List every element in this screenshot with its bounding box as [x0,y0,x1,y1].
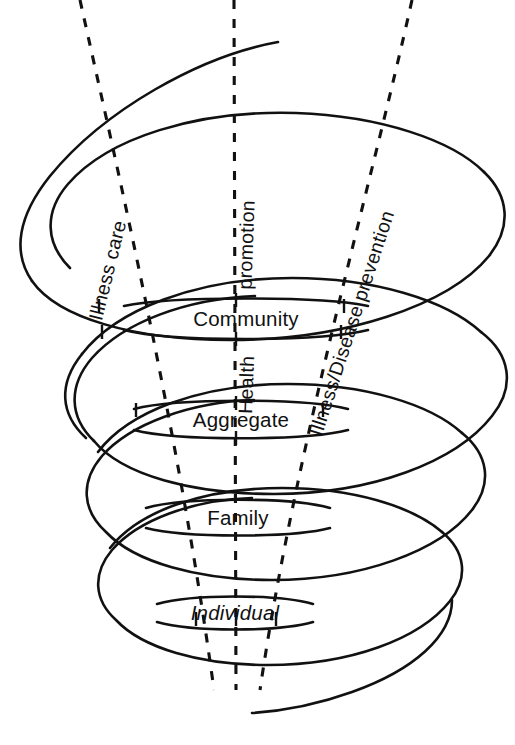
level-label-group: Community Aggregate Family Individual [191,307,300,624]
guide-line-group [80,0,412,690]
guide-line-illness-care [80,0,214,690]
spiral-funnel-diagram: Community Aggregate Family Individual Il… [0,0,515,745]
spiral-coil-4-loop [98,498,462,665]
level-label-individual: Individual [191,601,281,624]
axis-label-illness-disease-prevention: Illness/Disease prevention [305,207,399,438]
level-label-family: Family [207,506,269,529]
level-label-community: Community [193,307,299,330]
band-family-lower [146,528,330,536]
spiral-diagram-canvas: Community Aggregate Family Individual Il… [0,0,515,745]
axis-label-promotion: promotion [233,200,258,290]
axis-label-health: Health [234,355,258,414]
